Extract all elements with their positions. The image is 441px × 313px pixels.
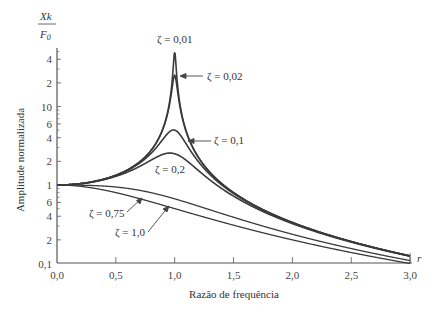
y-tick-label: 4 <box>47 132 53 144</box>
x-tick-label: 2,0 <box>286 269 300 281</box>
x-tick-label: 1,5 <box>227 269 241 281</box>
label-zeta-075: ζ = 0,75 <box>89 207 125 220</box>
fraction-denominator: F0 <box>39 28 51 42</box>
curve-002 <box>57 75 410 256</box>
y-tick-label: 4 <box>47 210 53 222</box>
fraction-numerator: Xk <box>39 10 53 22</box>
curve-01 <box>57 130 410 256</box>
y-tick-label: 4 <box>47 53 53 65</box>
y-tick-label: 1 <box>47 179 53 191</box>
y-tick-label: 2 <box>47 77 53 89</box>
x-tick-label: 3,0 <box>403 269 417 281</box>
label-zeta-02: ζ = 0,2 <box>155 163 185 176</box>
label-zeta-002: ζ = 0,02 <box>207 70 243 83</box>
curves <box>57 53 410 264</box>
y-axis-title: Amplitude normalizada <box>14 108 26 212</box>
x-ticks: 0,00,51,01,52,02,53,0 <box>50 257 417 281</box>
x-axis-symbol: r <box>417 252 422 264</box>
curve-02 <box>57 153 410 256</box>
y-tick-label: 2 <box>47 234 53 246</box>
x-axis-title: Razão de frequência <box>189 288 279 300</box>
x-tick-label: 0,0 <box>50 269 64 281</box>
y-tick-label: 6 <box>47 196 53 208</box>
x-tick-label: 2,5 <box>344 269 358 281</box>
y-tick-label: 10 <box>41 101 53 113</box>
y-tick-label: 0,1 <box>38 258 52 270</box>
x-tick-label: 0,5 <box>109 269 123 281</box>
frequency-response-chart: 0,124612461024 0,00,51,01,52,02,53,0 Xk … <box>0 0 441 313</box>
label-zeta-01: ζ = 0,1 <box>214 134 244 147</box>
x-tick-label: 1,0 <box>168 269 182 281</box>
label-zeta-001: ζ = 0,01 <box>157 33 193 46</box>
label-zeta-10: ζ = 1,0 <box>115 226 146 239</box>
y-axis-top-label: Xk F0 <box>38 10 56 42</box>
y-tick-label: 6 <box>47 118 53 130</box>
y-tick-label: 2 <box>47 155 53 167</box>
